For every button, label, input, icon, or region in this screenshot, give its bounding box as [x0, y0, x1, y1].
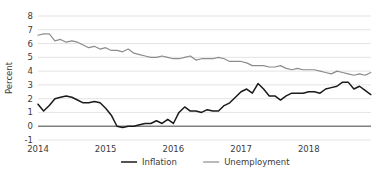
y-axis-tick-labels: 876543210-1 [25, 11, 33, 145]
legend-label-unemployment: Unemployment [224, 157, 290, 167]
legend-label-inflation: Inflation [142, 157, 177, 167]
y-axis-title: Percent [4, 61, 14, 94]
chart-container: 876543210-1 20142015201620172018 Percent… [0, 0, 377, 180]
chart-legend: InflationUnemployment [121, 157, 290, 167]
x-tick-label: 2015 [95, 144, 117, 154]
x-tick-label: 2018 [298, 144, 320, 154]
y-tick-label: 7 [28, 25, 33, 35]
y-tick-label: 8 [28, 11, 33, 21]
y-tick-label: 0 [28, 121, 33, 131]
x-tick-label: 2017 [230, 144, 252, 154]
series-line-inflation [38, 82, 371, 127]
y-tick-label: 3 [28, 80, 33, 90]
x-tick-label: 2014 [27, 144, 49, 154]
series-lines [38, 34, 371, 128]
series-line-unemployment [38, 34, 371, 75]
gridlines [38, 16, 371, 140]
y-tick-label: 2 [28, 94, 33, 104]
y-tick-label: 6 [28, 39, 33, 49]
x-axis-tick-labels: 20142015201620172018 [27, 144, 319, 154]
line-chart: 876543210-1 20142015201620172018 Percent… [0, 0, 377, 180]
y-tick-label: 5 [28, 52, 33, 62]
x-tick-label: 2016 [163, 144, 185, 154]
y-tick-label: 1 [28, 107, 33, 117]
y-tick-label: 4 [28, 66, 33, 76]
